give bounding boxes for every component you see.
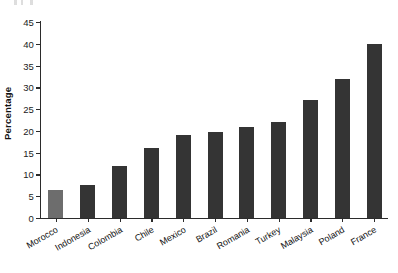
x-tick-label-malaysia: Malaysia (279, 225, 315, 251)
y-tick-label: 40 (23, 38, 34, 49)
bar-colombia[interactable] (112, 166, 127, 218)
bar-malaysia[interactable] (303, 100, 318, 218)
y-tick-mark (36, 66, 40, 67)
bar-chart: Percentage 051015202530354045MoroccoIndo… (0, 0, 398, 273)
x-tick-label-france: France (349, 225, 378, 248)
x-tick-mark (374, 218, 375, 222)
bar-france[interactable] (367, 44, 382, 218)
x-tick-label-colombia: Colombia (86, 225, 124, 253)
x-tick-mark (215, 218, 216, 222)
y-tick-label: 5 (29, 191, 34, 202)
y-tick-mark (36, 153, 40, 154)
x-tick-label-turkey: Turkey (254, 225, 283, 247)
x-tick-label-chile: Chile (133, 225, 156, 244)
plot-area: 051015202530354045MoroccoIndonesiaColomb… (40, 22, 390, 218)
y-tick-label: 30 (23, 82, 34, 93)
x-tick-mark (279, 218, 280, 222)
x-tick-mark (342, 218, 343, 222)
y-tick-label: 25 (23, 104, 34, 115)
x-tick-label-indonesia: Indonesia (53, 225, 92, 253)
x-tick-mark (56, 218, 57, 222)
bar-morocco[interactable] (48, 190, 63, 218)
bar-brazil[interactable] (208, 132, 223, 218)
x-tick-mark (88, 218, 89, 222)
y-tick-mark (36, 174, 40, 175)
x-tick-label-poland: Poland (317, 225, 346, 248)
x-tick-mark (310, 218, 311, 222)
bar-mexico[interactable] (176, 135, 191, 218)
x-tick-mark (120, 218, 121, 222)
bar-turkey[interactable] (271, 122, 286, 218)
y-tick-mark (36, 131, 40, 132)
x-tick-label-mexico: Mexico (158, 225, 188, 248)
bar-chile[interactable] (144, 148, 159, 218)
y-tick-label: 35 (23, 60, 34, 71)
bar-indonesia[interactable] (80, 185, 95, 218)
y-tick-label: 10 (23, 169, 34, 180)
y-tick-label: 45 (23, 17, 34, 28)
bar-poland[interactable] (335, 79, 350, 218)
bar-romania[interactable] (239, 127, 254, 218)
y-tick-label: 15 (23, 147, 34, 158)
y-tick-label: 20 (23, 125, 34, 136)
x-tick-mark (247, 218, 248, 222)
y-tick-label: 0 (29, 213, 34, 224)
x-tick-label-romania: Romania (215, 225, 251, 252)
y-axis-title: Percentage (2, 87, 13, 140)
y-tick-mark (36, 196, 40, 197)
y-tick-mark (36, 44, 40, 45)
y-tick-mark (36, 109, 40, 110)
y-tick-mark (36, 218, 40, 219)
x-tick-mark (151, 218, 152, 222)
x-tick-mark (183, 218, 184, 222)
y-tick-mark (36, 87, 40, 88)
y-tick-mark (36, 22, 40, 23)
cropped-text-remnant (14, 0, 44, 5)
